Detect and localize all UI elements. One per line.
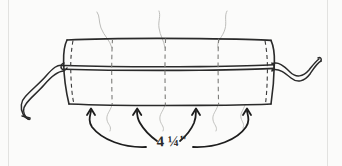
thread-line-bottom-3 xyxy=(213,105,218,131)
bolster-left-end xyxy=(64,40,69,104)
bolster-top-edge xyxy=(67,38,271,40)
dashed-end-seam-left xyxy=(71,41,74,105)
arrow-2-shaft xyxy=(137,111,157,141)
left-ribbon-tie xyxy=(21,63,67,119)
thread-line-bottom-2 xyxy=(160,105,165,131)
thread-line-bottom-4 xyxy=(241,105,245,128)
dashed-end-seam-right xyxy=(265,41,267,105)
thread-line-top-3 xyxy=(218,11,227,48)
measurement-arrows xyxy=(87,109,251,148)
bolster-diagram xyxy=(0,0,342,166)
thread-line-top-2 xyxy=(159,11,165,48)
dashed-gather-line-1 xyxy=(112,39,113,105)
bolster-bottom-edge xyxy=(69,104,271,106)
right-ribbon-edge-outer xyxy=(272,59,319,76)
bolster-mid-seam-upper xyxy=(64,65,274,67)
bolster-mid-seam-lower xyxy=(64,68,274,70)
thread-lines-bottom xyxy=(107,105,245,131)
arrow-3-shaft xyxy=(180,111,196,141)
right-ribbon-tie xyxy=(272,58,321,81)
bolster-body xyxy=(64,38,275,105)
thread-lines-top xyxy=(97,11,227,48)
dashed-gather-lines xyxy=(112,39,219,106)
dashed-gather-line-2 xyxy=(165,39,166,106)
sketch-canvas: 4 ¼" xyxy=(0,0,342,166)
arrow-4-shaft xyxy=(193,111,248,147)
thread-line-bottom-1 xyxy=(107,105,112,131)
thread-line-top-1 xyxy=(97,12,112,48)
dashed-end-seams xyxy=(71,41,268,105)
left-ribbon-tip xyxy=(22,116,30,118)
bolster-right-end xyxy=(271,40,274,104)
dashed-gather-line-3 xyxy=(218,39,219,106)
